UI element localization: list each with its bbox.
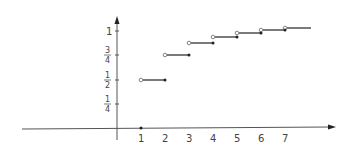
open-circles [139,26,287,82]
svg-text:4: 4 [105,56,110,65]
x-label-4: 4 [210,133,216,144]
x-axis-arrow-icon [328,125,336,130]
x-label-5: 5 [234,133,240,144]
x-label-2: 2 [162,133,168,144]
x-label-1: 1 [138,133,144,144]
x-label-6: 6 [258,133,264,144]
y-axis-arrow-icon [115,16,120,24]
step-segments [143,28,311,80]
svg-text:1: 1 [105,71,110,80]
svg-text:1: 1 [105,95,110,104]
y-label-1: 1 [106,26,112,37]
svg-text:2: 2 [105,81,110,90]
y-label-three-quarters: 3 4 [104,46,111,65]
x-axis [22,127,330,129]
y-label-quarter: 1 4 [104,95,111,114]
x-label-3: 3 [186,133,192,144]
svg-text:1: 1 [106,26,112,37]
svg-text:3: 3 [105,46,110,55]
x-label-7: 7 [282,133,288,144]
svg-text:4: 4 [105,105,110,114]
step-function-chart: 1 3 4 1 2 1 4 1 2 3 4 5 6 7 [0,0,354,149]
y-label-half: 1 2 [104,71,111,90]
